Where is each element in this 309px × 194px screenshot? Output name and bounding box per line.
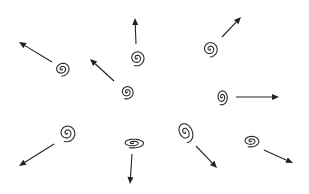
spiral-icon bbox=[61, 126, 75, 142]
vortex-3 bbox=[90, 59, 133, 99]
arrow-icon bbox=[236, 94, 279, 100]
spiral-icon bbox=[218, 91, 227, 105]
spiral-icon bbox=[205, 43, 218, 57]
vortex-4 bbox=[205, 17, 241, 57]
spiral-arrow-diagram bbox=[0, 0, 309, 194]
arrow-icon bbox=[127, 154, 133, 184]
arrow-icon bbox=[19, 42, 52, 62]
spiral-icon bbox=[179, 124, 193, 143]
vortex-8 bbox=[179, 124, 217, 168]
vortex-9 bbox=[245, 136, 293, 163]
vortex-2 bbox=[132, 18, 144, 66]
arrow-icon bbox=[196, 146, 217, 168]
arrow-icon bbox=[222, 17, 241, 37]
diagram-canvas bbox=[0, 0, 309, 194]
arrow-icon bbox=[19, 144, 54, 166]
spiral-icon bbox=[122, 87, 133, 99]
vortex-6 bbox=[19, 126, 75, 166]
arrow-icon bbox=[132, 18, 138, 44]
spiral-icon bbox=[125, 139, 143, 148]
vortex-1 bbox=[19, 42, 69, 76]
vortex-5 bbox=[218, 91, 279, 105]
spiral-icon bbox=[57, 63, 69, 76]
spiral-icon bbox=[245, 136, 259, 146]
arrow-icon bbox=[90, 59, 114, 81]
spiral-icon bbox=[132, 52, 144, 66]
arrow-icon bbox=[264, 150, 293, 163]
vortex-7 bbox=[125, 139, 143, 184]
